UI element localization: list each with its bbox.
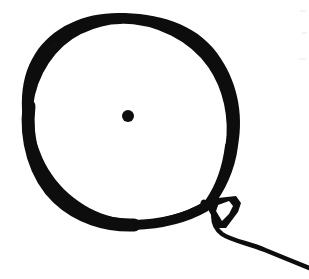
scan-speck — [302, 32, 307, 34]
balloon-center-dot — [122, 110, 134, 122]
drawing-canvas: Hand-drawn black ink outline of a balloo… — [0, 0, 309, 279]
knot-neck — [204, 203, 214, 206]
scan-speck — [299, 58, 306, 60]
balloon-drawing — [0, 0, 309, 279]
scan-speck — [300, 10, 306, 12]
